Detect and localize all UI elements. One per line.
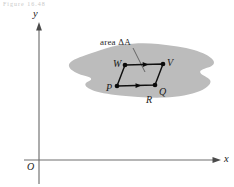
area-label: area ΔA: [100, 38, 131, 47]
figure-caption-fragment: Figure 16.48: [3, 1, 46, 7]
x-axis-label: x: [224, 154, 229, 165]
region-blob: [69, 43, 214, 97]
vertex-label-w: W: [113, 59, 121, 69]
vertex-label-p: P: [106, 83, 112, 93]
figure-container: Figure 16.48 y x O area ΔA W V P Q R: [0, 0, 234, 187]
vertex-point-p: [115, 84, 120, 89]
vertex-point-q: [153, 83, 158, 88]
x-axis-arrowhead: [213, 157, 222, 163]
vertex-label-q: Q: [159, 87, 166, 97]
y-axis-arrowhead: [36, 22, 42, 31]
vertex-label-v: V: [167, 58, 173, 68]
vertex-point-w: [123, 63, 128, 68]
origin-label: O: [27, 162, 34, 172]
vertex-point-v: [161, 62, 166, 67]
figure-canvas: [0, 0, 234, 187]
region-label-r: R: [146, 95, 152, 105]
y-axis-label: y: [33, 9, 38, 20]
